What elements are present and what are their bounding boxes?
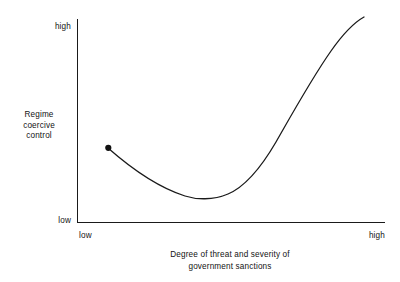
x-axis-low-tick-label: low xyxy=(79,231,92,242)
x-axis-title: Degree of threat and severity of governm… xyxy=(120,249,340,272)
chart-figure: high low Regime coercive control low hig… xyxy=(0,0,400,282)
data-curve xyxy=(108,17,364,199)
y-axis-title-line-1: Regime xyxy=(8,110,70,121)
y-axis-title: Regime coercive control xyxy=(8,110,70,142)
y-axis-low-tick-label: low xyxy=(0,216,71,227)
x-axis-title-line-1: Degree of threat and severity of xyxy=(120,249,340,261)
x-axis-high-tick-label: high xyxy=(330,231,385,242)
y-axis-title-line-2: coercive xyxy=(8,121,70,132)
y-axis-title-line-3: control xyxy=(8,131,70,142)
y-axis-high-tick-label: high xyxy=(0,22,71,33)
x-axis-title-line-2: government sanctions xyxy=(120,261,340,273)
start-point-marker xyxy=(105,145,111,151)
